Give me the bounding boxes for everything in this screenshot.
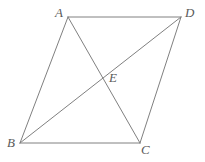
vertex-label-b: B: [7, 136, 15, 149]
vertex-label-d: D: [185, 6, 194, 19]
vertex-label-c: C: [141, 143, 150, 156]
segment-CD: [140, 17, 181, 143]
diagonal-AC: [68, 17, 140, 143]
vertex-label-e: E: [109, 71, 117, 84]
geometry-figure: A D E B C: [0, 0, 205, 162]
segment-group: [20, 17, 181, 143]
vertex-label-a: A: [55, 6, 63, 19]
parallelogram-diagram-svg: [0, 0, 205, 162]
